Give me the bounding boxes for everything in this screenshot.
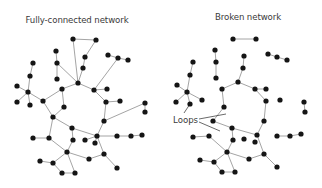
loop-pointer-line	[199, 122, 220, 131]
node	[190, 134, 195, 139]
node	[50, 160, 55, 165]
edge	[104, 103, 145, 121]
node	[30, 60, 35, 65]
node	[252, 139, 257, 144]
node	[105, 52, 110, 57]
node	[114, 133, 119, 138]
edge	[264, 154, 277, 167]
node	[40, 98, 45, 103]
node	[125, 57, 130, 62]
network-diagram: Fully-connected network Broken network L…	[0, 0, 322, 188]
node	[263, 98, 268, 103]
node	[301, 99, 306, 104]
node	[46, 135, 51, 140]
node	[14, 83, 19, 88]
broken-network	[173, 36, 307, 174]
node	[212, 47, 217, 52]
node	[59, 170, 64, 175]
node	[261, 118, 266, 123]
node	[246, 156, 251, 161]
node	[190, 59, 195, 64]
node	[92, 140, 97, 145]
edge	[73, 39, 96, 40]
edge	[97, 136, 104, 154]
network-graphs	[0, 0, 322, 188]
edge	[222, 89, 224, 107]
node	[213, 59, 218, 64]
node	[117, 98, 122, 103]
node	[230, 36, 235, 41]
node	[94, 133, 99, 138]
node	[197, 157, 202, 162]
node	[61, 104, 66, 109]
node	[199, 97, 204, 102]
node	[252, 86, 257, 91]
edge	[209, 136, 227, 152]
node	[59, 86, 64, 91]
node	[219, 86, 224, 91]
node	[229, 125, 234, 130]
node	[101, 151, 106, 156]
node	[241, 136, 246, 141]
edge	[67, 152, 75, 173]
node	[211, 159, 216, 164]
edge	[78, 83, 94, 90]
node	[274, 133, 279, 138]
node	[115, 55, 120, 60]
broken-network-title: Broken network	[215, 12, 281, 22]
edge	[72, 128, 97, 136]
node	[75, 80, 80, 85]
node	[187, 72, 192, 77]
node	[82, 54, 87, 59]
node	[82, 137, 87, 142]
node	[219, 169, 224, 174]
node	[232, 169, 237, 174]
node	[70, 137, 75, 142]
fully-connected-network	[14, 36, 147, 175]
edge	[264, 101, 266, 121]
edge	[53, 152, 67, 163]
node	[128, 133, 133, 138]
node	[142, 100, 147, 105]
edge	[227, 152, 235, 172]
loops-label: Loops	[173, 115, 198, 125]
edge	[104, 102, 106, 121]
edge	[49, 117, 53, 138]
node	[261, 151, 266, 156]
node	[91, 87, 96, 92]
edge	[49, 138, 67, 152]
node	[254, 132, 259, 137]
node	[70, 36, 75, 41]
loop-pointer-line	[199, 114, 226, 119]
edge	[232, 128, 257, 135]
edge	[104, 154, 117, 168]
node	[206, 133, 211, 138]
edge	[227, 152, 249, 159]
edge	[257, 135, 264, 154]
node	[53, 48, 58, 53]
edge	[238, 82, 255, 89]
node	[298, 131, 303, 136]
node	[221, 104, 226, 109]
edge	[67, 152, 89, 159]
node	[230, 137, 235, 142]
node	[14, 99, 19, 104]
node	[184, 89, 189, 94]
node	[253, 36, 258, 41]
edge	[73, 39, 78, 83]
node	[69, 125, 74, 130]
edge	[85, 40, 96, 57]
node	[287, 133, 292, 138]
node	[265, 51, 270, 56]
edge	[53, 117, 72, 128]
edge	[43, 101, 53, 117]
node	[240, 65, 245, 70]
node	[277, 97, 282, 102]
node	[54, 60, 59, 65]
edge	[28, 92, 43, 101]
node	[103, 99, 108, 104]
node	[37, 158, 42, 163]
fully-connected-title: Fully-connected network	[25, 15, 128, 25]
edge	[57, 63, 78, 83]
edge	[213, 121, 232, 128]
